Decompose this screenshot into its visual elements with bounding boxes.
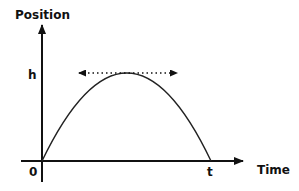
y-axis-label: Position: [15, 8, 70, 22]
peak-height-label: h: [28, 68, 37, 82]
x-axis-label: Time: [257, 163, 290, 177]
origin-label: 0: [29, 165, 37, 179]
position-time-diagram: Position h 0 t Time: [0, 0, 299, 191]
position-curve: [42, 73, 211, 161]
end-time-label: t: [207, 165, 213, 179]
